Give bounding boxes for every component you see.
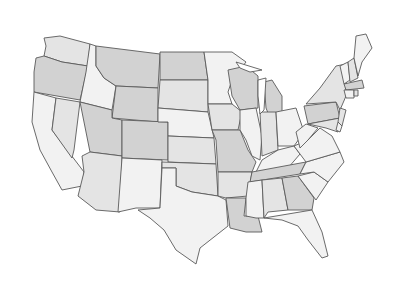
lake-michigan	[258, 78, 266, 114]
state-nm	[118, 158, 162, 212]
us-map-svg	[0, 0, 400, 281]
state-wi	[228, 66, 258, 110]
state-sd	[158, 80, 208, 112]
state-ct	[344, 90, 354, 98]
state-ks	[168, 136, 216, 164]
state-ms	[246, 180, 264, 218]
state-wy	[112, 86, 158, 122]
state-co	[122, 120, 168, 160]
state-az	[78, 152, 122, 212]
state-ia	[208, 104, 242, 130]
us-map	[0, 0, 400, 281]
state-fl	[264, 210, 328, 258]
state-in	[260, 112, 278, 156]
state-nd	[160, 52, 208, 80]
state-ny	[306, 64, 346, 110]
state-me	[354, 34, 372, 76]
state-ri	[354, 90, 358, 96]
